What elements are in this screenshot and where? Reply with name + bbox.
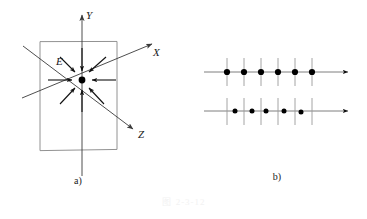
lattice-row-aligned [204, 58, 348, 86]
lattice-dot [299, 110, 304, 115]
figure-caption: 图 2-3-12 [162, 197, 205, 207]
lattice-dot [282, 109, 287, 114]
axis-z-label: Z [138, 128, 145, 140]
lattice-dot [233, 109, 238, 114]
panel-b-caption: b) [273, 171, 281, 183]
panel-a: Y X Z [22, 9, 161, 187]
lattice-dot [250, 109, 255, 114]
figure-svg: Y X Z [0, 0, 367, 219]
lattice-dot [258, 69, 264, 75]
panel-b: b) [204, 58, 348, 183]
axis-x-label: X [152, 46, 161, 58]
axis-z: Z [23, 46, 145, 140]
lattice-row-offset [204, 98, 348, 125]
field-arrow-sw [60, 88, 75, 104]
charge-dot [79, 77, 86, 84]
lattice-dot [264, 109, 269, 114]
lattice-dot [309, 69, 315, 75]
axis-y-label: Y [86, 9, 94, 21]
lattice-dot [224, 69, 230, 75]
row2-dots [233, 109, 304, 115]
figure-container: Y X Z [0, 0, 367, 219]
axis-y: Y [82, 9, 94, 176]
lattice-dot [292, 69, 298, 75]
lattice-dot [275, 69, 281, 75]
field-label-e: E [55, 55, 63, 67]
lattice-dot [241, 69, 247, 75]
plane-parallelogram [40, 31, 117, 162]
panel-a-caption: a) [74, 175, 82, 187]
